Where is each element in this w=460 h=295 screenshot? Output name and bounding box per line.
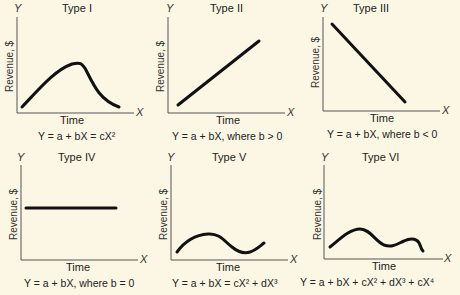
y-axis-label: Revenue, $: [310, 37, 321, 88]
panel-type-v: Y Type V Revenue, $ X Time Y = a + bX = …: [150, 145, 303, 292]
x-axis-letter: X: [444, 252, 451, 264]
equation: Y = a + bX = cX² + dX³: [172, 277, 277, 289]
equation: Y = a + bX, where b = 0: [24, 277, 134, 289]
panel-type-vi: Y Type VI Revenue, $ X Time Y = a + bX +…: [300, 145, 460, 292]
x-axis-label: Time: [216, 261, 240, 273]
y-axis-letter: Y: [166, 2, 173, 14]
x-axis-letter: X: [290, 253, 297, 265]
panel-type-iii: Y Type III Revenue, $ X Time Y = a + bX,…: [300, 0, 453, 147]
panel-title: Type II: [210, 2, 243, 14]
equation: Y = a + bX, where b < 0: [327, 128, 437, 140]
y-axis-label: Revenue, $: [155, 41, 166, 92]
panel-type-ii: Y Type II Revenue, $ X Time Y = a + bX, …: [150, 0, 303, 147]
x-axis-letter: X: [287, 106, 294, 118]
x-axis-label: Time: [60, 114, 84, 126]
equation: Y = a + bX + cX² + dX³ + cX⁴: [300, 276, 434, 288]
y-axis-label: Revenue, $: [8, 189, 19, 240]
x-axis-letter: X: [136, 106, 143, 118]
x-axis-letter: X: [442, 104, 449, 116]
panel-type-i: Y Type I Revenue, $ X Time Y = a + bX = …: [0, 0, 153, 147]
x-axis-letter: X: [140, 253, 147, 265]
y-axis-letter: Y: [17, 151, 24, 163]
panel-title: Type III: [353, 2, 389, 14]
y-axis-label: Revenue, $: [158, 189, 169, 240]
chart-type-iii: [300, 0, 460, 147]
x-axis-label: Time: [66, 261, 90, 273]
y-axis-label: Revenue, $: [312, 189, 323, 240]
x-axis-label: Time: [372, 260, 396, 272]
y-axis-letter: Y: [320, 2, 327, 14]
panel-title: Type IV: [58, 151, 95, 163]
panel-type-iv: Y Type IV Revenue, $ X Time Y = a + bX, …: [0, 145, 153, 292]
y-axis-letter: Y: [321, 151, 328, 163]
y-axis-letter: Y: [167, 151, 174, 163]
equation: Y = a + bX, where b > 0: [172, 130, 282, 142]
panel-title: Type V: [212, 151, 246, 163]
panel-title: Type I: [62, 2, 92, 14]
x-axis-label: Time: [216, 114, 240, 126]
panel-title: Type VI: [362, 151, 399, 163]
x-axis-label: Time: [370, 112, 394, 124]
y-axis-letter: Y: [14, 2, 21, 14]
equation: Y = a + bX = cX²: [38, 130, 115, 142]
y-axis-label: Revenue, $: [4, 41, 15, 92]
